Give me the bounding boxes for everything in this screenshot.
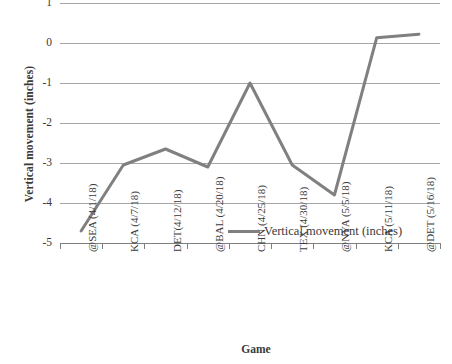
x-axis-tick-label: KCA (5/11/18)	[382, 186, 394, 252]
legend-swatch-vertical-movement	[228, 230, 260, 233]
x-axis-tick-label: @SEA (4/1/18)	[86, 184, 98, 253]
x-axis-tick-label: TEX (4/30/18)	[297, 187, 309, 252]
x-axis-tick-label: DET(4/12/18)	[171, 190, 183, 252]
x-axis-title: Game	[60, 343, 452, 355]
x-axis-tick-label: @BAL (4/20/18)	[213, 177, 225, 252]
legend-label-vertical-movement: Vertical movement (inches)	[264, 224, 402, 239]
x-axis-tick-label: CHN (4/25/18)	[255, 185, 267, 252]
series-layer	[0, 0, 452, 364]
line-chart: Vertical movement (inches) 10-1-2-3-4-5 …	[0, 0, 452, 364]
legend: Vertical movement (inches)	[228, 224, 402, 239]
x-axis-tick-label: @NYA (5/5/18)	[339, 182, 351, 252]
x-axis-tick-label: KCA (4/7/18)	[128, 191, 140, 252]
x-axis-tick-label: @DET (5/16/18)	[424, 177, 436, 252]
